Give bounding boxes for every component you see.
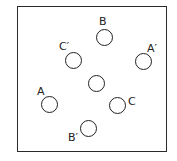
circle-center <box>88 75 105 92</box>
circle-c <box>109 97 126 114</box>
circle-a-prime <box>135 53 152 70</box>
circle-label: A <box>37 86 45 97</box>
circle-a <box>41 96 58 113</box>
circle-b <box>96 29 113 46</box>
circle-label: C′ <box>59 41 69 52</box>
circle-label: B′ <box>68 132 78 143</box>
circle-c-prime <box>65 52 82 69</box>
circle-b-prime <box>80 120 97 137</box>
circle-label: A′ <box>147 43 157 54</box>
circle-label: C <box>128 96 136 107</box>
circle-label: B <box>99 16 107 27</box>
